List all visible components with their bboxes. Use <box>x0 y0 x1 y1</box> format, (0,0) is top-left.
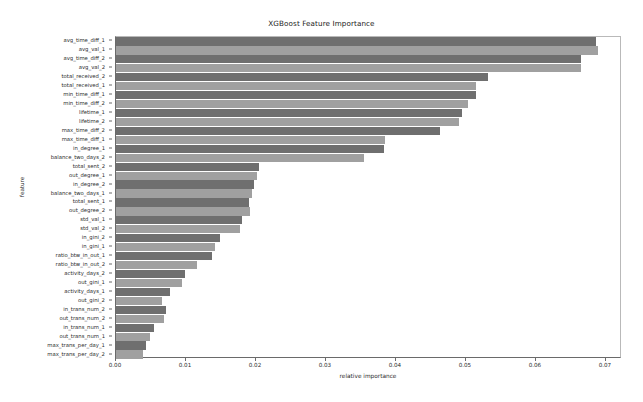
y-tick-mark <box>109 49 112 50</box>
y-tick-mark <box>109 174 112 175</box>
y-tick-label-out_gini_1: out_gini_1 <box>78 279 105 285</box>
y-tick-label-max_trans_per_day_1: max_trans_per_day_1 <box>47 342 105 348</box>
y-tick-mark <box>109 94 112 95</box>
bar-avg_val_2 <box>116 64 581 72</box>
bar-min_time_diff_1 <box>116 91 476 99</box>
y-tick-label-activity_days_1: activity_days_1 <box>64 288 105 294</box>
y-tick-mark <box>109 129 112 130</box>
x-tick-label-0.02: 0.02 <box>249 362 261 368</box>
y-tick-label-std_val_2: std_val_2 <box>80 225 105 231</box>
y-tick-mark <box>109 138 112 139</box>
bar-total_sent_2 <box>116 163 259 171</box>
bar-avg_time_diff_2 <box>116 55 581 63</box>
y-tick-mark <box>109 58 112 59</box>
y-tick-label-total_sent_2: total_sent_2 <box>73 163 105 169</box>
bar-avg_val_1 <box>116 46 598 54</box>
y-tick-mark <box>109 183 112 184</box>
y-tick-label-avg_time_diff_2: avg_time_diff_2 <box>63 55 105 61</box>
chart-figure: XGBoost Feature Importance feature avg_t… <box>0 0 643 402</box>
y-tick-mark <box>109 67 112 68</box>
y-tick-label-in_trans_num_1: in_trans_num_1 <box>63 324 105 330</box>
y-tick-mark <box>109 344 112 345</box>
y-tick-mark <box>109 210 112 211</box>
y-tick-label-out_gini_2: out_gini_2 <box>78 297 105 303</box>
bar-in_trans_num_2 <box>116 306 166 314</box>
y-tick-label-avg_val_2: avg_val_2 <box>79 64 105 70</box>
x-tick-mark <box>255 358 256 361</box>
page-title: XGBoost Feature Importance <box>0 19 643 28</box>
y-tick-label-total_received_1: total_received_1 <box>62 82 106 88</box>
x-tick-mark <box>535 358 536 361</box>
bar-lifetime_1 <box>116 109 462 117</box>
bar-lifetime_2 <box>116 118 459 126</box>
y-tick-label-total_sent_1: total_sent_1 <box>73 198 105 204</box>
bar-out_trans_num_1 <box>116 333 150 341</box>
bar-total_sent_1 <box>116 198 249 206</box>
x-axis-title: relative importance <box>115 373 621 379</box>
bar-out_degree_2 <box>116 207 250 215</box>
bar-out_trans_num_2 <box>116 315 164 323</box>
y-tick-label-max_time_diff_2: max_time_diff_2 <box>62 127 105 133</box>
bar-total_received_2 <box>116 73 488 81</box>
y-tick-mark <box>109 192 112 193</box>
y-tick-mark <box>109 326 112 327</box>
bar-ratio_btw_in_out_2 <box>116 261 197 269</box>
y-tick-mark <box>109 120 112 121</box>
y-tick-label-balance_two_days_1: balance_two_days_1 <box>51 190 105 196</box>
bar-out_gini_1 <box>116 279 182 287</box>
bar-avg_time_diff_1 <box>116 37 596 45</box>
x-tick-label-0.06: 0.06 <box>529 362 541 368</box>
y-tick-label-in_degree_1: in_degree_1 <box>73 145 105 151</box>
y-tick-mark <box>109 290 112 291</box>
y-tick-mark <box>109 246 112 247</box>
y-tick-mark <box>109 219 112 220</box>
bar-std_val_1 <box>116 216 242 224</box>
y-tick-label-avg_time_diff_1: avg_time_diff_1 <box>63 37 105 43</box>
x-tick-mark <box>395 358 396 361</box>
y-tick-label-activity_days_2: activity_days_2 <box>64 270 105 276</box>
plot-area <box>115 36 621 358</box>
y-tick-label-total_received_2: total_received_2 <box>62 73 106 79</box>
y-tick-label-lifetime_1: lifetime_1 <box>79 109 105 115</box>
bar-in_trans_num_1 <box>116 324 154 332</box>
bar-in_degree_2 <box>116 180 254 188</box>
bar-out_gini_2 <box>116 297 162 305</box>
y-tick-mark <box>109 255 112 256</box>
bar-series <box>116 37 620 357</box>
x-tick-label-0.04: 0.04 <box>389 362 401 368</box>
y-tick-label-in_degree_2: in_degree_2 <box>73 181 105 187</box>
y-tick-label-lifetime_2: lifetime_2 <box>79 118 105 124</box>
bar-max_time_diff_1 <box>116 136 385 144</box>
x-tick-mark <box>115 358 116 361</box>
y-tick-label-out_degree_2: out_degree_2 <box>69 207 105 213</box>
bar-in_gini_1 <box>116 243 215 251</box>
bar-std_val_2 <box>116 225 240 233</box>
y-tick-label-max_trans_per_day_2: max_trans_per_day_2 <box>47 351 105 357</box>
bar-in_gini_2 <box>116 234 220 242</box>
y-tick-label-max_time_diff_1: max_time_diff_1 <box>62 136 105 142</box>
y-axis-labels: avg_time_diff_1avg_val_1avg_time_diff_2a… <box>0 36 112 358</box>
y-tick-mark <box>109 40 112 41</box>
y-tick-label-avg_val_1: avg_val_1 <box>79 46 105 52</box>
bar-min_time_diff_2 <box>116 100 468 108</box>
bar-ratio_btw_in_out_1 <box>116 252 212 260</box>
y-tick-label-std_val_1: std_val_1 <box>80 216 105 222</box>
y-tick-label-min_time_diff_2: min_time_diff_2 <box>63 100 105 106</box>
y-tick-label-out_degree_1: out_degree_1 <box>69 172 105 178</box>
x-tick-mark <box>325 358 326 361</box>
y-tick-mark <box>109 228 112 229</box>
y-tick-mark <box>109 353 112 354</box>
y-tick-mark <box>109 76 112 77</box>
y-tick-mark <box>109 201 112 202</box>
bar-balance_two_days_2 <box>116 154 364 162</box>
y-tick-label-in_gini_1: in_gini_1 <box>82 243 105 249</box>
x-axis-ticks: 0.000.010.020.030.040.050.060.07 <box>115 358 621 372</box>
y-tick-label-out_trans_num_2: out_trans_num_2 <box>60 315 105 321</box>
x-tick-label-0.00: 0.00 <box>109 362 121 368</box>
x-tick-label-0.03: 0.03 <box>319 362 331 368</box>
y-tick-mark <box>109 264 112 265</box>
x-tick-mark <box>185 358 186 361</box>
y-tick-label-balance_two_days_2: balance_two_days_2 <box>51 154 105 160</box>
x-tick-label-0.01: 0.01 <box>179 362 191 368</box>
y-tick-mark <box>109 273 112 274</box>
